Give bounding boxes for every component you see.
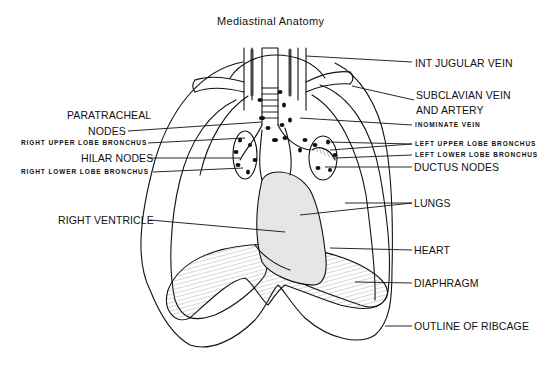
mediastinal-anatomy-diagram: Mediastinal Anatomy PARATRACHEAL NODES R… bbox=[0, 0, 558, 369]
label-left-lower-lobe-bronchus: LEFT LOWER LOBE BRONCHUS bbox=[415, 152, 538, 159]
label-and-artery: AND ARTERY bbox=[416, 105, 484, 116]
subclavian-right bbox=[195, 77, 244, 92]
label-hilar-nodes: HILAR NODES bbox=[81, 153, 153, 164]
label-right-lower-lobe-bronchus: RIGHT LOWER LOBE BRONCHUS bbox=[21, 169, 149, 176]
label-inominate-vein: INOMINATE VEIN bbox=[415, 122, 481, 129]
label-lungs: LUNGS bbox=[414, 198, 451, 209]
label-right-ventricle: RIGHT VENTRICLE bbox=[58, 215, 154, 226]
label-outline-of-ribcage: OUTLINE OF RIBCAGE bbox=[414, 321, 529, 332]
label-paratracheal: PARATRACHEAL bbox=[67, 110, 151, 121]
diagram-title: Mediastinal Anatomy bbox=[217, 16, 324, 27]
anatomy-illustration bbox=[0, 0, 558, 369]
trachea bbox=[262, 48, 278, 88]
label-ductus-nodes: DUCTUS NODES bbox=[414, 162, 499, 173]
label-diaphragm: DIAPHRAGM bbox=[414, 278, 479, 289]
label-subclavian-vein: SUBCLAVIAN VEIN bbox=[416, 90, 511, 101]
label-heart: HEART bbox=[414, 245, 450, 256]
heart bbox=[257, 172, 326, 285]
label-right-upper-lobe-bronchus: RIGHT UPPER LOBE BRONCHUS bbox=[21, 140, 147, 147]
label-left-upper-lobe-bronchus: LEFT UPPER LOBE BRONCHUS bbox=[415, 141, 536, 148]
int-jugular-vein-left bbox=[298, 48, 306, 110]
label-int-jugular-vein: INT JUGULAR VEIN bbox=[415, 58, 513, 69]
label-paratracheal-nodes: NODES bbox=[88, 126, 126, 137]
